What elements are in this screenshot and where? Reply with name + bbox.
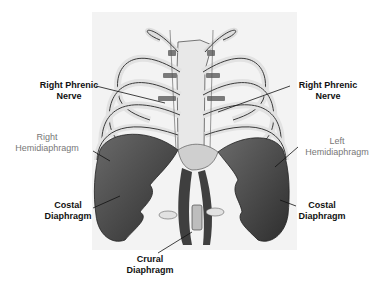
vertebra (192, 205, 202, 230)
label-right-hemidiaphragm: Right Hemidiaphragm (10, 132, 84, 154)
label-costal-diaphragm-right: Costal Diaphragm (294, 200, 350, 222)
right-hemidiaphragm (94, 134, 178, 241)
left-hemidiaphragm (218, 138, 289, 241)
label-left-hemidiaphragm: Left Hemidiaphragm (300, 136, 374, 158)
central-tendon (178, 144, 218, 170)
sternum (177, 40, 212, 162)
label-right-phrenic-nerve-right: Right Phrenic Nerve (296, 80, 360, 102)
label-crural-diaphragm: Crural Diaphragm (122, 254, 178, 276)
label-right-phrenic-nerve-left: Right Phrenic Nerve (30, 80, 108, 102)
label-costal-diaphragm-left: Costal Diaphragm (40, 200, 96, 222)
